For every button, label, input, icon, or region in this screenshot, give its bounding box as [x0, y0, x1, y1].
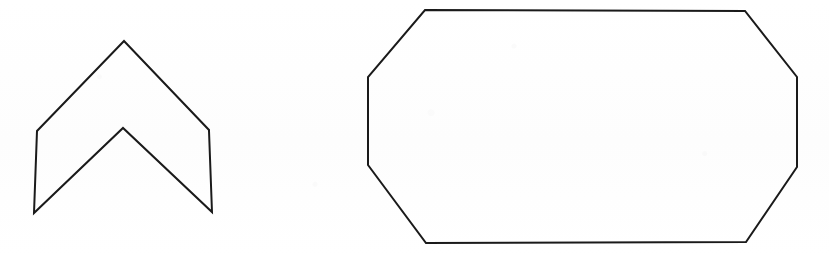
drawing-canvas — [0, 0, 829, 256]
shapes-figure — [0, 0, 829, 256]
chevron-shape — [34, 41, 212, 213]
octagon-shape — [368, 10, 797, 243]
